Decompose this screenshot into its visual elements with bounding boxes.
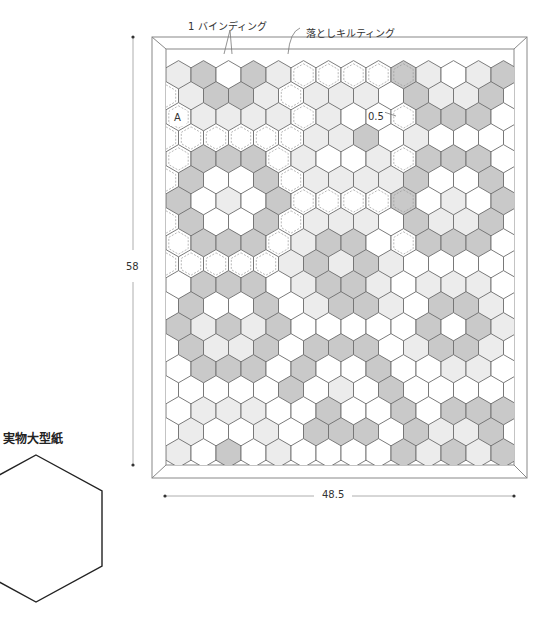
height-dimension	[131, 35, 134, 466]
template-title: 実物大型紙	[3, 429, 63, 446]
block-a-label: A	[174, 112, 181, 123]
height-dimension-label: 58	[126, 261, 139, 272]
width-dimension-label: 48.5	[322, 489, 344, 500]
quilt-diagram	[0, 0, 560, 621]
seam-allowance-label: 0.5	[367, 111, 385, 122]
template-hexagon	[0, 455, 102, 602]
ditch-quilting-label: 落としキルティング	[306, 25, 395, 40]
hexagon-grid	[154, 61, 542, 468]
binding-label: 1 バインディング	[188, 18, 267, 33]
